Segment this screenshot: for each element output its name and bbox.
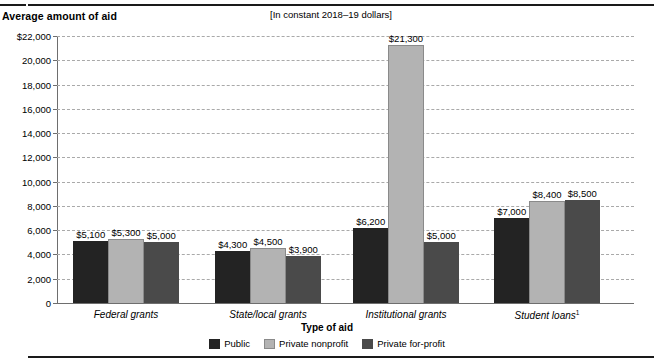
y-axis-tick	[53, 206, 57, 207]
chart-legend: PublicPrivate nonprofitPrivate for-profi…	[0, 338, 654, 349]
bar-value-label: $4,500	[253, 236, 282, 247]
y-axis-tick-label: $22,000	[17, 31, 51, 42]
bar-forprofit[interactable]: $3,900	[286, 256, 321, 303]
y-axis-tick	[53, 85, 57, 86]
header-rule	[28, 4, 654, 6]
y-axis-title: Average amount of aid	[2, 10, 117, 22]
bar-group: $5,100$5,300$5,000Federal grants	[73, 36, 179, 303]
bar-public[interactable]: $6,200	[353, 228, 388, 303]
y-axis-tick	[53, 254, 57, 255]
legend-swatch-icon	[264, 339, 275, 349]
bar-value-label: $5,000	[427, 230, 456, 241]
bar-value-label: $3,900	[289, 244, 318, 255]
y-axis-tick-label: 8,000	[27, 200, 51, 211]
bars: $7,000$8,400$8,500	[494, 36, 600, 303]
y-axis-tick	[53, 303, 57, 304]
bar-nonprofit[interactable]: $21,300	[388, 45, 423, 304]
bar-value-label: $5,100	[76, 229, 105, 240]
header-rule-left	[0, 4, 26, 6]
y-axis-tick	[53, 279, 57, 280]
bar-value-label: $8,500	[568, 188, 597, 199]
y-axis-tick	[53, 230, 57, 231]
bar-value-label: $6,200	[356, 216, 385, 227]
bar-public[interactable]: $4,300	[215, 251, 250, 303]
legend-item-forprofit[interactable]: Private for-profit	[362, 338, 445, 349]
x-axis-category-label: Federal grants	[94, 309, 158, 320]
y-axis-tick-label: 18,000	[22, 79, 51, 90]
bars: $4,300$4,500$3,900	[215, 36, 321, 303]
bar-forprofit[interactable]: $5,000	[144, 242, 179, 303]
bar-value-label: $7,000	[497, 206, 526, 217]
footer-rule	[28, 356, 654, 358]
plot-area: $22,00020,00018,00016,00014,00012,00010,…	[57, 36, 634, 304]
legend-swatch-icon	[362, 339, 373, 349]
legend-item-nonprofit[interactable]: Private nonprofit	[264, 338, 348, 349]
y-axis-tick-label: 14,000	[22, 128, 51, 139]
bars: $6,200$21,300$5,000	[353, 36, 459, 303]
bar-value-label: $8,400	[532, 189, 561, 200]
y-axis-tick-label: 6,000	[27, 225, 51, 236]
bar-value-label: $21,300	[389, 33, 423, 44]
footnote-marker: 1	[576, 309, 580, 316]
legend-swatch-icon	[209, 339, 220, 349]
y-axis-tick	[53, 157, 57, 158]
bar-nonprofit[interactable]: $8,400	[529, 201, 564, 303]
bar-group: $7,000$8,400$8,500Student loans1	[494, 36, 600, 303]
bar-value-label: $4,300	[218, 239, 247, 250]
units-note: [In constant 2018–19 dollars]	[270, 9, 392, 20]
bar-value-label: $5,000	[147, 230, 176, 241]
legend-label: Private for-profit	[377, 338, 445, 349]
y-axis-tick-label: 10,000	[22, 176, 51, 187]
y-axis-tick-label: 20,000	[22, 55, 51, 66]
y-axis-tick	[53, 109, 57, 110]
bar-nonprofit[interactable]: $4,500	[250, 248, 285, 303]
y-axis-tick-label: 2,000	[27, 273, 51, 284]
bar-group: $6,200$21,300$5,000Institutional grants	[353, 36, 459, 303]
y-axis-tick-label: 4,000	[27, 249, 51, 260]
legend-label: Private nonprofit	[279, 338, 348, 349]
bar-value-label: $5,300	[111, 227, 140, 238]
x-axis-category-label: Student loans1	[515, 309, 580, 321]
y-axis-tick-label: 12,000	[22, 152, 51, 163]
y-axis-tick	[53, 182, 57, 183]
x-axis-line	[57, 303, 634, 304]
y-axis-tick	[53, 60, 57, 61]
legend-title: Type of aid	[0, 322, 654, 333]
x-axis-category-label: State/local grants	[229, 309, 306, 320]
legend-item-public[interactable]: Public	[209, 338, 250, 349]
bar-forprofit[interactable]: $8,500	[565, 200, 600, 303]
bar-forprofit[interactable]: $5,000	[424, 242, 459, 303]
y-axis-tick	[53, 133, 57, 134]
y-axis-tick-label: 16,000	[22, 103, 51, 114]
bars: $5,100$5,300$5,000	[73, 36, 179, 303]
bar-nonprofit[interactable]: $5,300	[108, 239, 143, 303]
y-axis-tick	[53, 36, 57, 37]
bar-public[interactable]: $7,000	[494, 218, 529, 303]
bar-public[interactable]: $5,100	[73, 241, 108, 303]
x-axis-category-label: Institutional grants	[365, 309, 446, 320]
y-axis-line	[57, 36, 58, 304]
y-axis-tick-label: 0	[46, 298, 51, 309]
legend-label: Public	[224, 338, 250, 349]
bar-group: $4,300$4,500$3,900State/local grants	[215, 36, 321, 303]
